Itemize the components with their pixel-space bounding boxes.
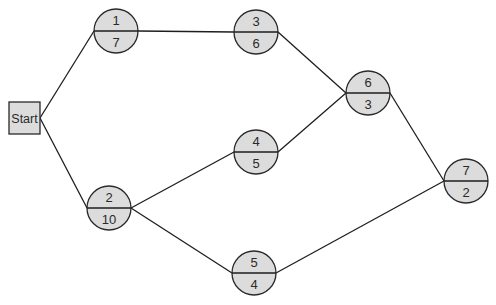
nodes-layer: 172103645546372 <box>87 9 488 295</box>
node-5: 54 <box>232 251 276 295</box>
node-3: 36 <box>234 10 278 54</box>
node-id-label: 3 <box>252 14 259 29</box>
node-1: 17 <box>94 9 138 53</box>
node-id-label: 2 <box>105 190 112 205</box>
node-6: 63 <box>346 71 390 115</box>
edge-1-to-3 <box>138 31 234 32</box>
node-id-label: 6 <box>364 75 371 90</box>
start-label: Start <box>11 112 38 126</box>
node-id-label: 5 <box>250 255 257 270</box>
edge-2-to-5 <box>131 208 232 273</box>
node-id-label: 7 <box>462 163 469 178</box>
node-duration-label: 10 <box>102 212 116 227</box>
edge-start-to-1 <box>40 31 94 118</box>
edge-3-to-6 <box>278 32 346 93</box>
edge-4-to-6 <box>278 93 346 152</box>
node-duration-label: 4 <box>250 277 257 292</box>
edge-start-to-2 <box>40 118 87 208</box>
node-id-label: 1 <box>112 13 119 28</box>
node-7: 72 <box>444 159 488 203</box>
node-duration-label: 5 <box>252 156 259 171</box>
network-diagram: 172103645546372 Start <box>0 0 496 305</box>
node-id-label: 4 <box>252 134 259 149</box>
node-duration-label: 3 <box>364 97 371 112</box>
node-2: 210 <box>87 186 131 230</box>
node-4: 45 <box>234 130 278 174</box>
node-duration-label: 6 <box>252 36 259 51</box>
node-duration-label: 7 <box>112 35 119 50</box>
edge-2-to-4 <box>131 152 234 208</box>
edge-6-to-7 <box>390 93 444 181</box>
edge-5-to-7 <box>276 181 444 273</box>
node-duration-label: 2 <box>462 185 469 200</box>
start-node: Start <box>9 102 40 134</box>
